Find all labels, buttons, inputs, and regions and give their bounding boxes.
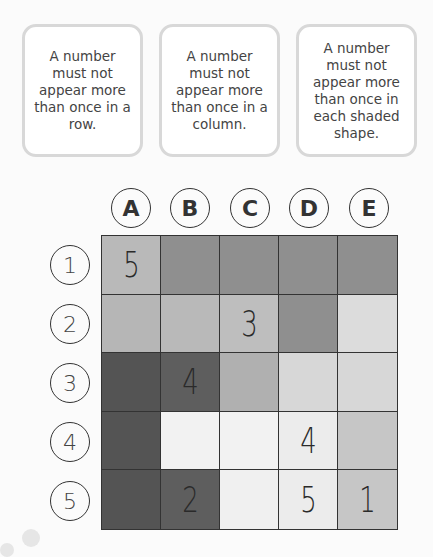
column-label-c: C xyxy=(230,188,270,228)
column-label-b: B xyxy=(170,188,210,228)
row-label-3: 3 xyxy=(50,363,90,403)
rule-card-row-constraint: A number must not appear more than once … xyxy=(22,24,143,157)
grid-cell-d4[interactable]: 4 xyxy=(279,412,338,471)
grid-cell-b2[interactable] xyxy=(161,295,220,354)
cell-value: 5 xyxy=(300,479,316,520)
grid-cell-a1[interactable]: 5 xyxy=(102,236,161,295)
rule-text: A number must not appear more than once … xyxy=(305,40,408,142)
column-label-a: A xyxy=(111,188,151,228)
grid-cell-e4[interactable] xyxy=(338,412,397,471)
cell-value: 5 xyxy=(123,244,139,285)
column-label-e: E xyxy=(349,188,389,228)
rule-card-shape-constraint: A number must not appear more than once … xyxy=(296,24,417,157)
row-label-1: 1 xyxy=(50,245,90,285)
grid-cell-a5[interactable] xyxy=(102,470,161,529)
grid-cell-a4[interactable] xyxy=(102,412,161,471)
grid-cell-a2[interactable] xyxy=(102,295,161,354)
puzzle-grid: 5344251 xyxy=(101,235,398,530)
row-label-5: 5 xyxy=(50,481,90,521)
grid-cell-d5[interactable]: 5 xyxy=(279,470,338,529)
cell-value: 4 xyxy=(182,361,198,402)
row-label-2: 2 xyxy=(50,304,90,344)
grid-cell-e5[interactable]: 1 xyxy=(338,470,397,529)
grid-cell-d1[interactable] xyxy=(279,236,338,295)
grid-cell-b1[interactable] xyxy=(161,236,220,295)
grid-cell-a3[interactable] xyxy=(102,353,161,412)
grid-cell-c2[interactable]: 3 xyxy=(220,295,279,354)
grid-cell-d2[interactable] xyxy=(279,295,338,354)
grid-cell-e2[interactable] xyxy=(338,295,397,354)
grid-cell-b4[interactable] xyxy=(161,412,220,471)
grid-cell-c5[interactable] xyxy=(220,470,279,529)
grid-cell-c3[interactable] xyxy=(220,353,279,412)
grid-cell-e3[interactable] xyxy=(338,353,397,412)
decorative-dot xyxy=(22,529,40,547)
row-label-4: 4 xyxy=(50,422,90,462)
grid-cell-b5[interactable]: 2 xyxy=(161,470,220,529)
cell-value: 2 xyxy=(182,479,198,520)
rule-text: A number must not appear more than once … xyxy=(31,48,134,133)
grid-cell-d3[interactable] xyxy=(279,353,338,412)
cell-value: 4 xyxy=(300,420,316,461)
column-label-d: D xyxy=(289,188,329,228)
rule-text: A number must not appear more than once … xyxy=(168,48,271,133)
decorative-dot xyxy=(0,543,14,557)
grid-cell-b3[interactable]: 4 xyxy=(161,353,220,412)
cell-value: 1 xyxy=(359,479,375,520)
rule-card-column-constraint: A number must not appear more than once … xyxy=(159,24,280,157)
grid-cell-c1[interactable] xyxy=(220,236,279,295)
cell-value: 3 xyxy=(241,303,257,344)
grid-cell-c4[interactable] xyxy=(220,412,279,471)
grid-cell-e1[interactable] xyxy=(338,236,397,295)
